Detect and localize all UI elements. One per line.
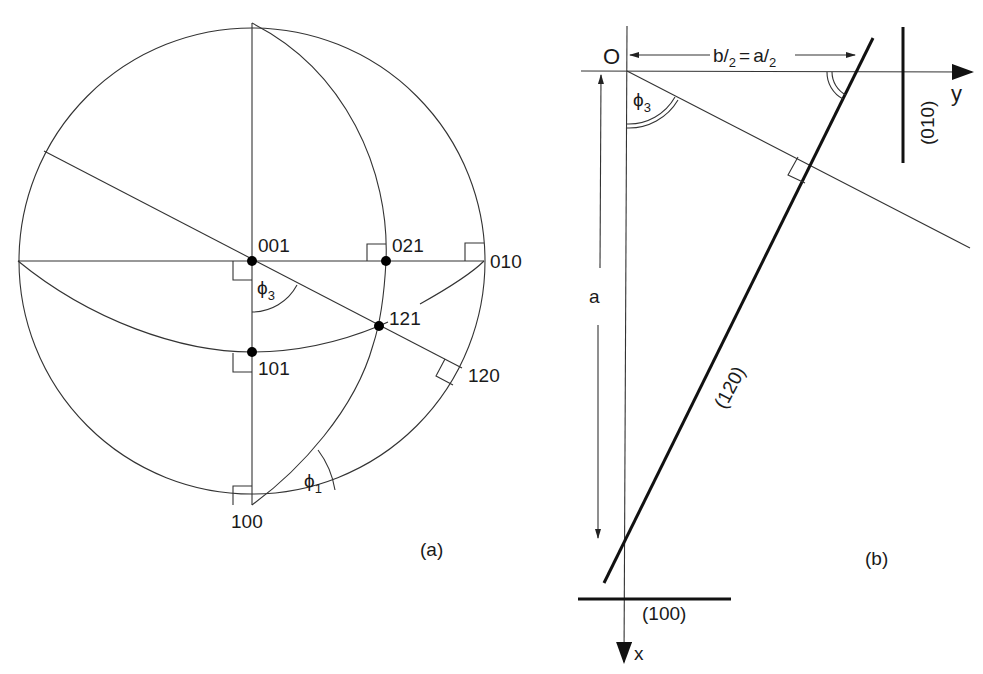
dimension-a-arrow-up (600, 75, 601, 268)
label-100: 100 (231, 511, 263, 532)
dim-b: b (713, 45, 724, 66)
dim-two-2: 2 (769, 55, 776, 70)
right-angle-marker-120 (436, 359, 453, 385)
dim-eq: = (739, 45, 750, 66)
pole-101-dot (247, 347, 257, 357)
great-circle-021-121-100 (252, 23, 386, 505)
caption-a: (a) (420, 539, 443, 560)
phi-subscript: 3 (644, 100, 651, 115)
right-angle-marker-100 (233, 486, 252, 505)
plane-label-010: (010) (917, 101, 938, 145)
angle-arc-intercept-outer (827, 72, 843, 99)
right-angle-marker-010 (465, 243, 484, 261)
dim-two-1: 2 (729, 55, 736, 70)
dim-a: a (753, 45, 764, 66)
label-010: 010 (490, 251, 522, 272)
dimension-label-top: b/2=a/2 (713, 45, 776, 70)
plane-trace-120 (604, 38, 873, 583)
stereographic-figure: 001 021 010 121 101 120 100 ϕ3 ϕ1 (a) (0, 0, 983, 674)
angle-label-phi1: ϕ1 (304, 470, 322, 496)
y-axis (581, 71, 972, 72)
pole-121-dot (374, 321, 384, 331)
plane-label-120: (120) (710, 363, 749, 412)
angle-label-phi3-b: ϕ3 (633, 89, 651, 115)
phi-subscript: 1 (315, 481, 322, 496)
label-121: 121 (389, 308, 421, 329)
phi-symbol: ϕ (633, 89, 644, 110)
origin-label: O (603, 44, 620, 69)
normal-line-120 (627, 71, 970, 248)
x-axis-label: x (634, 643, 644, 664)
pole-001-dot (247, 256, 257, 266)
label-120: 120 (468, 365, 500, 386)
label-101: 101 (258, 358, 290, 379)
phi-symbol: ϕ (304, 470, 315, 491)
phi-subscript: 3 (268, 288, 275, 303)
label-001: 001 (258, 235, 290, 256)
stereogram-panel-a: 001 021 010 121 101 120 100 ϕ3 ϕ1 (a) (18, 23, 522, 560)
angle-label-phi3: ϕ3 (257, 277, 275, 303)
phi-symbol: ϕ (257, 277, 268, 298)
y-axis-label: y (951, 81, 962, 106)
great-circle-121-010 (420, 261, 484, 304)
dimension-label-a: a (589, 286, 600, 307)
x-axis (624, 26, 627, 662)
label-021: 021 (392, 235, 424, 256)
plane-label-100: (100) (642, 603, 686, 624)
caption-b: (b) (865, 548, 888, 569)
plane-intercepts-panel-b: O y x b/2=a/2 a ϕ3 (120) (010) (100) (b) (578, 26, 972, 664)
great-circle-101-121 (18, 261, 379, 352)
pole-021-dot (381, 256, 391, 266)
